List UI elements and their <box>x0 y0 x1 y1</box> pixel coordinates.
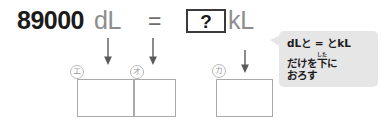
hint-text: dLと = とkL だけを下したに おろす <box>287 35 374 83</box>
answer-box-o[interactable] <box>134 79 176 117</box>
hint-kanji-base: 下 <box>317 57 327 69</box>
marker-label-o: オ <box>130 65 144 79</box>
down-arrow-icon <box>101 38 115 66</box>
hint-kanji-shita: 下した <box>317 57 327 69</box>
equals-sign: = <box>148 7 161 35</box>
answer-question-box[interactable]: ? <box>186 9 226 33</box>
down-arrow-icon <box>238 50 252 78</box>
marker-label-e: エ <box>70 65 84 79</box>
hint-speech-bubble: dLと = とkL だけを下したに おろす <box>279 31 378 87</box>
equation-left-unit: dL <box>94 6 121 34</box>
worksheet-canvas: 89000 dL = ? kL エ オ カ dLと = とkL だけを下 <box>0 0 384 123</box>
question-mark: ? <box>188 11 224 31</box>
hint-line-2: だけを下したに <box>287 51 374 67</box>
hint-furigana: した <box>317 51 327 57</box>
down-arrow-icon <box>146 38 160 66</box>
hint-line-1: dLと = とkL <box>287 35 374 51</box>
answer-box-ka[interactable] <box>216 79 273 117</box>
equation-left-number: 89000 <box>17 6 84 34</box>
equation-right-unit: kL <box>228 6 254 34</box>
hint-line-2-suffix: に <box>327 57 337 69</box>
marker-label-ka: カ <box>212 64 226 78</box>
answer-box-e[interactable] <box>77 79 134 117</box>
